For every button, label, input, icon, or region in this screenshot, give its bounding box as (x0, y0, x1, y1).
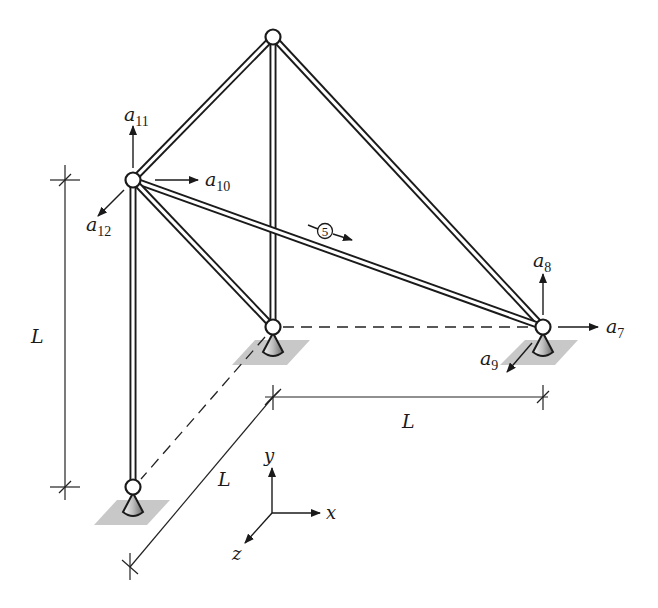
coordinate-axes: y x z (231, 445, 336, 564)
dof-label-a8: a8 (533, 249, 551, 275)
support-cone-right (533, 333, 553, 356)
dimension-depth (122, 389, 281, 580)
dof-label-a12: a12 (86, 213, 111, 239)
ground-line-diagonal (141, 337, 265, 479)
dof-label-a9: a9 (480, 347, 498, 373)
element-number: 5 (322, 224, 329, 239)
element-label-5: 5 (308, 224, 352, 241)
dof-label-a7: a7 (606, 315, 624, 341)
dimension-vertical (50, 165, 80, 500)
axis-z-arrow (245, 513, 272, 543)
member-top-to-upper-left (133, 37, 273, 180)
axis-x-label: x (326, 502, 336, 523)
axis-y-label: y (263, 445, 275, 466)
dimension-label-depth: L (217, 468, 231, 490)
truss-diagram: 5 y x z L L L a11 a10 a12 a8 a7 a9 (0, 0, 658, 608)
dimension-label-horizontal: L (401, 410, 415, 432)
node-right-support (536, 320, 551, 335)
support-cone-front-left (123, 493, 143, 516)
dimension-horizontal (265, 385, 549, 410)
node-top (266, 30, 281, 45)
support-cone-back-left (263, 333, 283, 356)
dof-arrow-a12 (98, 190, 124, 216)
member-5-upper-left-to-right (133, 180, 543, 327)
dof-label-a11: a11 (124, 103, 149, 129)
member-top-to-right (273, 37, 543, 327)
node-front-left-support (126, 480, 141, 495)
dimension-label-vertical: L (30, 325, 44, 347)
axis-z-label: z (231, 543, 242, 564)
node-back-left-support (266, 320, 281, 335)
node-upper-left (126, 173, 141, 188)
dof-label-a10: a10 (205, 168, 230, 194)
